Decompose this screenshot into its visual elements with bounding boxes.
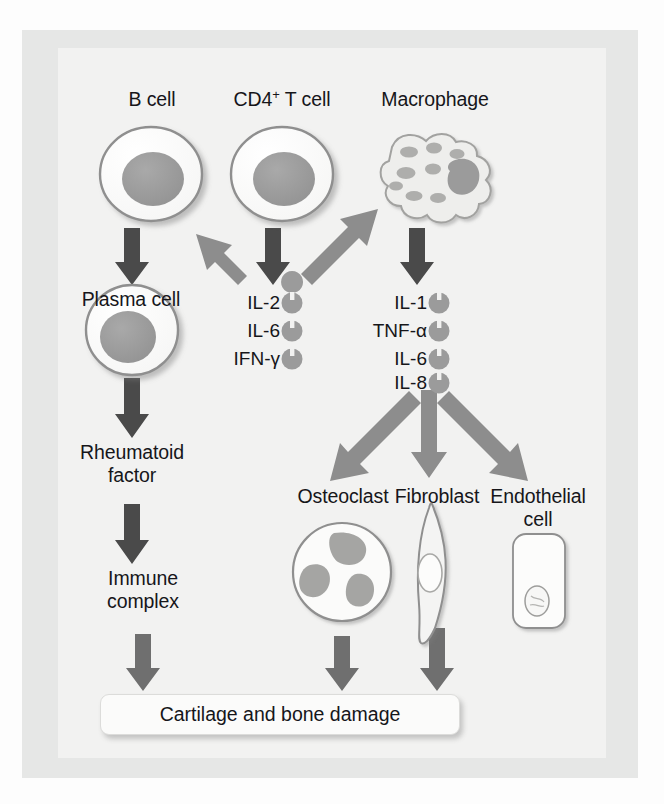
- t-cell-nucleus: [253, 152, 315, 206]
- macrophage-label: Macrophage: [381, 88, 488, 111]
- cytokine-blob: [281, 271, 303, 293]
- outcome-label: Cartilage and bone damage: [160, 703, 401, 726]
- arrow-plasmacell-to-rheumatoidfactor: [115, 378, 149, 438]
- b-cell-label: B cell: [128, 88, 175, 111]
- arrow-osteoclast-to-outcome: [325, 636, 359, 691]
- arrow-immunecomplex-to-outcome: [126, 634, 160, 691]
- cytokine-label-ifn-gamma: IFN-γ: [234, 348, 280, 370]
- t-cell-label-tail: T cell: [280, 88, 331, 110]
- plasma-cell-nucleus: [100, 311, 156, 363]
- cytokine-label-il-8: IL-8: [394, 372, 427, 394]
- immune-complex-label-line1: Immune: [108, 567, 178, 590]
- rheumatoid-factor-label-line2: factor: [108, 464, 156, 487]
- cytokine-blob-group-macrophage: [429, 292, 450, 394]
- arrow-cytokines-to-endothelial: [437, 391, 528, 481]
- figure-page: B cell CD4+ T cell Macrophage Plasma cel…: [0, 0, 664, 804]
- immune-complex-label-line2: complex: [107, 590, 179, 613]
- endothelial-cell-label-line2: cell: [524, 508, 553, 531]
- fibroblast-label: Fibroblast: [395, 485, 480, 508]
- cytokine-blob-group-t-cell: [281, 271, 303, 369]
- endothelial-cell-label-line1: Endothelial: [490, 485, 585, 508]
- cytokine-label-il-6-m: IL-6: [394, 348, 427, 370]
- fibroblast-nucleus: [418, 554, 442, 592]
- cytokine-label-tnf-alpha: TNF-α: [373, 320, 427, 342]
- outcome-box: Cartilage and bone damage: [100, 694, 460, 735]
- b-cell-nucleus: [122, 152, 184, 206]
- rheumatoid-factor-label-line1: Rheumatoid: [80, 441, 184, 464]
- t-cell-label-main: CD4: [234, 88, 273, 110]
- arrow-rheumatoidfactor-to-immunecomplex: [115, 504, 149, 564]
- arrow-macrophage-to-cytokines: [400, 228, 434, 285]
- cytokine-label-il-6-t: IL-6: [247, 320, 280, 342]
- cytokine-label-il-2: IL-2: [247, 292, 280, 314]
- t-cell-label: CD4+ T cell: [234, 88, 331, 111]
- arrow-cytokines-to-osteoclast: [330, 391, 421, 481]
- diagram-canvas: [0, 0, 664, 804]
- arrow-cytokines-to-macrophage: [301, 209, 378, 286]
- arrow-bcell-to-plasmacell: [115, 228, 149, 285]
- arrow-cytokines-to-bcell: [196, 234, 247, 288]
- plasma-cell-label: Plasma cell: [82, 288, 181, 311]
- osteoclast-label: Osteoclast: [297, 485, 388, 508]
- endothelial-cell-nucleus: [525, 586, 549, 616]
- cytokine-label-il-1: IL-1: [394, 292, 427, 314]
